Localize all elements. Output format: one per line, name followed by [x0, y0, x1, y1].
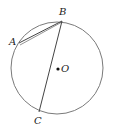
circle-diagram: B A C O [0, 0, 113, 128]
label-b: B [58, 6, 66, 17]
chord-ab [19, 21, 62, 43]
center-dot [56, 67, 59, 70]
label-a: A [8, 36, 16, 47]
label-o: O [61, 63, 69, 74]
label-c: C [34, 115, 42, 126]
chord-bc [39, 21, 62, 112]
